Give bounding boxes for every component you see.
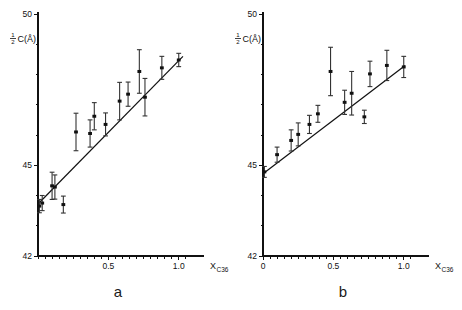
data-marker xyxy=(368,72,372,75)
y-axis-title-unit: C(Å) xyxy=(18,34,37,44)
data-marker xyxy=(402,65,406,68)
plot-area-b: 42455000.51.012C(Å)XC36 xyxy=(231,0,462,310)
data-point xyxy=(349,71,354,115)
data-marker xyxy=(177,58,181,61)
data-marker xyxy=(143,96,147,99)
x-tick-label: 0.5 xyxy=(102,261,114,271)
y-tick-label: 45 xyxy=(23,160,33,170)
chart-panel-b: 42455000.51.012C(Å)XC36 b xyxy=(231,0,462,310)
data-point xyxy=(384,50,389,80)
y-tick-label: 42 xyxy=(248,251,258,261)
data-marker xyxy=(74,130,78,133)
data-marker xyxy=(275,153,279,156)
data-marker xyxy=(40,202,44,205)
data-point xyxy=(307,115,312,133)
y-axis-title-denominator: 2 xyxy=(11,39,15,45)
data-point xyxy=(137,50,142,94)
data-point xyxy=(328,47,333,95)
y-axis-title-numerator: 1 xyxy=(11,32,15,38)
data-marker xyxy=(38,205,42,208)
x-axis-title: X xyxy=(210,261,216,271)
x-tick-label: 1.0 xyxy=(398,261,410,271)
data-point xyxy=(315,105,320,122)
data-marker xyxy=(263,170,267,173)
data-marker xyxy=(296,133,300,136)
data-point xyxy=(401,56,406,77)
data-point xyxy=(117,82,122,120)
data-point xyxy=(143,78,148,116)
data-point xyxy=(61,196,66,213)
data-point xyxy=(92,103,97,130)
data-marker xyxy=(289,139,293,142)
data-marker xyxy=(316,112,320,115)
data-point xyxy=(103,113,108,136)
data-marker xyxy=(350,92,354,95)
data-point xyxy=(176,53,181,66)
data-marker xyxy=(126,93,130,96)
data-point xyxy=(126,82,131,106)
y-tick-label: 50 xyxy=(248,9,258,19)
data-point xyxy=(74,113,79,151)
data-point xyxy=(362,110,367,123)
y-axis-title-unit: C(Å) xyxy=(243,34,262,44)
data-marker xyxy=(362,115,366,118)
data-marker xyxy=(92,115,96,118)
x-tick-label: 1.0 xyxy=(173,261,185,271)
data-marker xyxy=(329,70,333,73)
data-marker xyxy=(61,203,65,206)
plot-area-a: 4245500.51.012C(Å)XC36 xyxy=(0,0,231,310)
data-marker xyxy=(104,123,108,126)
y-tick-label: 45 xyxy=(248,160,258,170)
data-marker xyxy=(88,132,92,135)
data-marker xyxy=(343,101,347,104)
fit-line xyxy=(263,65,405,173)
chart-panel-a: 4245500.51.012C(Å)XC36 a xyxy=(0,0,231,310)
data-marker xyxy=(137,70,141,73)
data-marker xyxy=(160,66,164,69)
x-axis-title: X xyxy=(435,261,441,271)
data-marker xyxy=(385,64,389,67)
x-axis-title-subscript: C36 xyxy=(217,266,229,273)
data-point xyxy=(296,123,301,146)
data-point xyxy=(368,61,373,86)
y-tick-label: 50 xyxy=(23,9,33,19)
data-point xyxy=(88,120,93,147)
x-tick-label: 0 xyxy=(261,261,266,271)
data-marker xyxy=(118,100,122,103)
data-point xyxy=(52,175,57,199)
x-tick-label: 0.5 xyxy=(327,261,339,271)
data-marker xyxy=(308,123,312,126)
fit-line xyxy=(38,56,183,204)
y-axis-title-numerator: 1 xyxy=(236,32,240,38)
data-point xyxy=(275,147,280,162)
x-axis-title-subscript: C36 xyxy=(442,266,454,273)
figure-root: 4245500.51.012C(Å)XC36 a 42455000.51.012… xyxy=(0,0,462,310)
y-tick-label: 42 xyxy=(23,251,33,261)
y-axis-title-denominator: 2 xyxy=(236,39,240,45)
data-marker xyxy=(53,186,57,189)
data-point xyxy=(289,130,294,151)
